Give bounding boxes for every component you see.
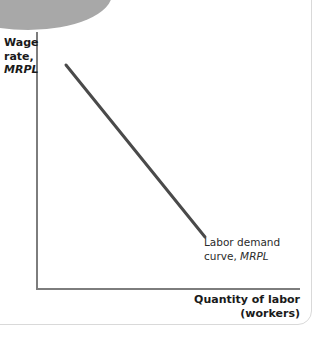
curve-annotation-prefix: curve, <box>204 250 240 262</box>
y-axis-label: Wage rate, MRPL <box>4 36 34 77</box>
figure-root: Wage rate, MRPL Labor demand curve, MRPL… <box>0 0 322 338</box>
x-axis-label-line2: (workers) <box>150 307 300 321</box>
labor-demand-curve-line <box>66 65 205 237</box>
demand-curve-svg <box>0 0 322 338</box>
y-axis-label-line2: rate, <box>4 50 34 64</box>
y-axis-label-line3: MRPL <box>4 63 34 77</box>
y-axis-label-line1: Wage <box>4 36 34 50</box>
curve-annotation: Labor demand curve, MRPL <box>204 236 314 263</box>
curve-annotation-line2: curve, MRPL <box>204 250 314 264</box>
curve-annotation-line1: Labor demand <box>204 236 314 250</box>
x-axis-label: Quantity of labor (workers) <box>150 293 300 320</box>
x-axis-label-line1: Quantity of labor <box>150 293 300 307</box>
curve-annotation-mrpl: MRPL <box>240 250 269 262</box>
